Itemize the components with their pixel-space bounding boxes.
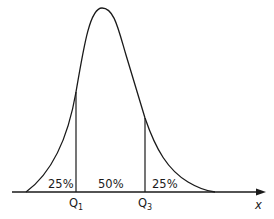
q1-label: Q1: [69, 196, 83, 212]
region-upper-label: 25%: [152, 177, 178, 191]
x-axis-label: x: [254, 198, 262, 212]
q3-label: Q3: [138, 196, 152, 212]
distribution-curve: [26, 8, 215, 192]
distribution-diagram: 25% 50% 25% Q1 Q3 x: [0, 0, 274, 219]
region-lower-label: 25%: [48, 177, 74, 191]
region-middle-label: 50%: [98, 177, 124, 191]
x-axis-arrow-icon: [256, 189, 266, 196]
